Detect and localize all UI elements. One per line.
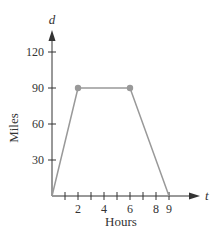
x-tick-label: 2 (75, 202, 81, 216)
x-variable-label: t (205, 188, 209, 203)
x-axis-title: Hours (105, 214, 137, 229)
y-tick-label: 60 (32, 117, 44, 131)
y-tick-label: 30 (32, 153, 44, 167)
y-variable-label: d (49, 12, 56, 27)
y-axis-arrow-icon (49, 30, 56, 41)
distance-time-chart: 24689306090120dtHoursMiles (0, 0, 215, 236)
x-tick-label: 8 (153, 202, 159, 216)
y-tick-label: 120 (26, 45, 44, 59)
plot-area (52, 85, 169, 196)
data-point-marker (75, 85, 81, 91)
data-point-marker (127, 85, 133, 91)
y-axis-title: Miles (6, 113, 21, 143)
x-axis-arrow-icon (189, 193, 200, 200)
y-tick-label: 90 (32, 81, 44, 95)
x-tick-label: 9 (166, 202, 172, 216)
data-line (52, 88, 169, 196)
